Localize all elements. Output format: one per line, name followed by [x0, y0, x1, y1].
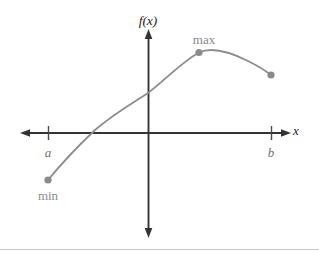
x-axis-right-arrowhead [281, 129, 291, 137]
min-point-label: min [38, 188, 59, 203]
graph-canvas: f(x) x a b min max [0, 0, 319, 253]
tick-label-a: a [45, 145, 52, 160]
min-point-marker [44, 176, 51, 183]
max-point-marker [195, 49, 202, 56]
tick-label-b: b [268, 145, 275, 160]
function-axis-label: f(x) [139, 13, 158, 28]
function-graph-figure: f(x) x a b min max [0, 0, 319, 253]
y-axis-bottom-arrowhead [145, 228, 153, 238]
x-axis-left-arrowhead [20, 129, 30, 137]
x-axis-label: x [292, 123, 299, 138]
max-point-label: max [193, 32, 216, 47]
x-axis [20, 129, 291, 137]
right-endpoint-marker [267, 71, 274, 78]
function-curve [48, 50, 271, 180]
y-axis-top-arrowhead [145, 29, 153, 39]
